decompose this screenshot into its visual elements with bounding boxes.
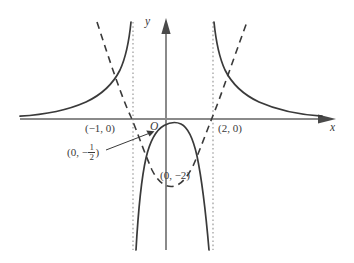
point-label-left-root: (−1, 0) bbox=[85, 123, 115, 134]
y-axis-arrowhead bbox=[161, 18, 170, 34]
point-label-minimum: (0, −2) bbox=[160, 170, 190, 181]
point-label-y-intercept: (0, −12) bbox=[67, 143, 99, 162]
graph-canvas bbox=[0, 0, 354, 263]
solid-curve-left-branch bbox=[20, 22, 131, 116]
y-intercept-prefix: (0, − bbox=[67, 146, 88, 158]
solid-curve-right-branch bbox=[214, 22, 322, 116]
x-axis-label: x bbox=[330, 122, 335, 134]
y-axis-label: y bbox=[145, 16, 150, 28]
dashed-curve bbox=[97, 22, 247, 187]
y-intercept-fraction: 12 bbox=[88, 143, 95, 162]
y-intercept-suffix: ) bbox=[95, 146, 99, 158]
origin-label: O bbox=[150, 121, 158, 133]
fraction-denominator: 2 bbox=[88, 153, 95, 162]
graph-figure: y x O (−1, 0) (2, 0) (0, −12) (0, −2) bbox=[0, 0, 354, 263]
point-label-right-root: (2, 0) bbox=[218, 123, 242, 134]
